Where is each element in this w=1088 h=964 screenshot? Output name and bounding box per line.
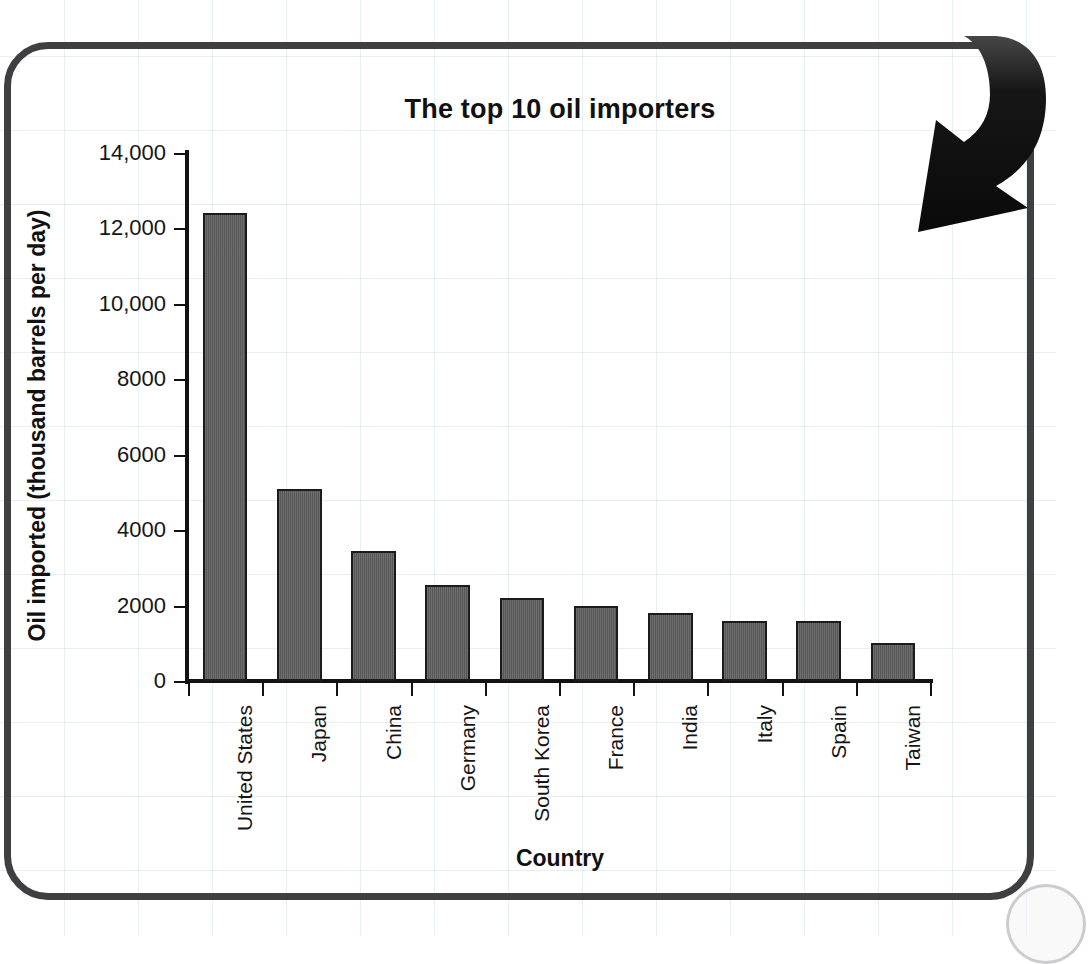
y-axis-tick-label: 6000 <box>117 442 166 468</box>
x-axis-tick <box>336 681 338 696</box>
bar <box>277 489 322 681</box>
y-axis-tick: 2000 <box>174 606 188 608</box>
bar-chart: The top 10 oil importers Oil imported (t… <box>0 42 1030 900</box>
y-axis-tick: 6000 <box>174 455 188 457</box>
bar <box>871 643 916 681</box>
bar <box>203 213 248 681</box>
bar <box>796 621 841 681</box>
y-axis-tick: 8000 <box>174 379 188 381</box>
x-axis-category-label: Japan <box>307 705 331 762</box>
y-axis-title: Oil imported (thousand barrels per day) <box>24 146 51 706</box>
y-axis-tick-label: 0 <box>154 668 166 694</box>
bar <box>425 585 470 681</box>
plot-area: 0200040006000800010,00012,00014,000Unite… <box>188 153 930 681</box>
bar <box>351 551 396 681</box>
x-axis-category-label: South Korea <box>530 705 554 822</box>
x-axis-category-label: Spain <box>827 705 851 759</box>
x-axis-tick <box>262 681 264 696</box>
bar <box>722 621 767 681</box>
y-axis-tick: 12,000 <box>174 228 188 230</box>
x-axis-category-label: China <box>382 705 406 760</box>
y-axis-tick: 10,000 <box>174 304 188 306</box>
x-axis-tick <box>930 681 932 696</box>
x-axis-tick <box>782 681 784 696</box>
bar <box>648 613 693 681</box>
chart-title: The top 10 oil importers <box>180 94 940 125</box>
y-axis-tick-label: 10,000 <box>99 291 166 317</box>
x-axis-category-label: Italy <box>753 705 777 744</box>
y-axis-tick: 0 <box>174 681 188 683</box>
x-axis-tick <box>411 681 413 696</box>
x-axis-category-label: India <box>678 705 702 751</box>
x-axis-title: Country <box>180 845 940 872</box>
y-axis-tick: 14,000 <box>174 153 188 155</box>
x-axis-tick <box>559 681 561 696</box>
x-axis-tick <box>485 681 487 696</box>
x-axis-tick <box>188 681 190 696</box>
x-axis-tick <box>633 681 635 696</box>
y-axis-tick-label: 14,000 <box>99 140 166 166</box>
x-axis-category-label: Taiwan <box>901 705 925 770</box>
page-corner-circle <box>1006 884 1086 964</box>
bar <box>574 606 619 681</box>
y-axis-tick: 4000 <box>174 530 188 532</box>
x-axis-category-label: Germany <box>456 705 480 791</box>
y-axis-tick-label: 12,000 <box>99 215 166 241</box>
y-axis-tick-label: 8000 <box>117 366 166 392</box>
x-axis-category-label: France <box>604 705 628 770</box>
x-axis-tick <box>707 681 709 696</box>
bar <box>500 598 545 681</box>
x-axis-tick <box>856 681 858 696</box>
x-axis-category-label: United States <box>233 705 257 831</box>
y-axis-tick-label: 4000 <box>117 517 166 543</box>
y-axis-tick-label: 2000 <box>117 593 166 619</box>
